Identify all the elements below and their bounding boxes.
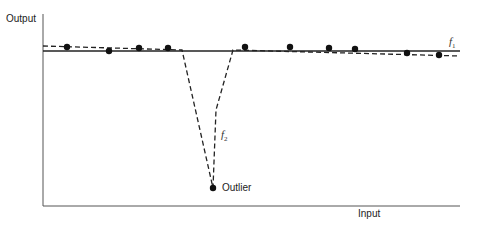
plot-canvas [0,0,478,228]
outlier-label: Outlier [222,182,251,193]
outlier-point [210,185,216,191]
x-axis-label: Input [358,208,380,219]
f2-label: f2 [221,128,228,143]
f2-curve [43,46,460,188]
y-axis-label: Output [6,13,36,24]
f1-label: f1 [449,35,456,50]
